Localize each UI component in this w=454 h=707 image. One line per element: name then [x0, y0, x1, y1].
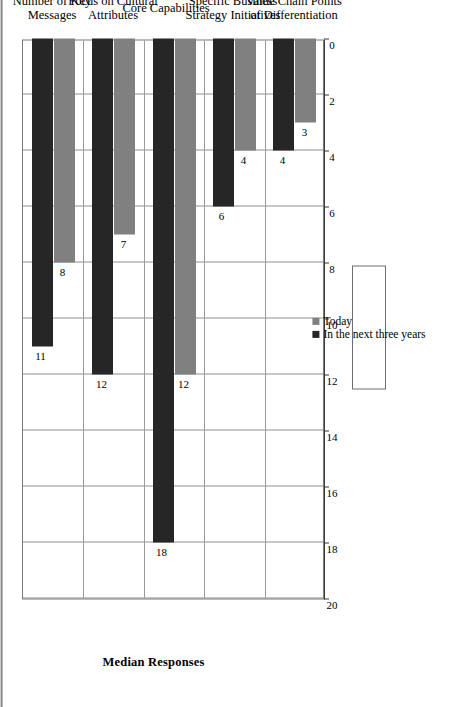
bar-value-label: 3	[297, 127, 311, 138]
bar-today	[54, 38, 75, 262]
gridline	[23, 597, 323, 598]
legend-swatch-icon	[312, 330, 319, 337]
category-label: Number of KeyMessages	[0, 0, 110, 21]
value-axis-title: Median Responses	[103, 655, 193, 670]
category-separator	[144, 40, 145, 598]
bar-today	[114, 38, 135, 234]
bar-today	[235, 38, 256, 150]
chart-canvas: 02468101214161820 Median Responses Value…	[0, 0, 454, 707]
bar-future	[273, 38, 294, 150]
plot-area	[22, 39, 324, 599]
tick-label: 20	[323, 599, 341, 610]
bar-value-label: 11	[34, 351, 48, 362]
bar-value-label: 6	[215, 211, 229, 222]
bar-value-label: 18	[155, 547, 169, 558]
legend-entry: In the next three years	[312, 327, 425, 340]
category-label-line: Number of Key	[0, 0, 110, 7]
tick-label: 16	[323, 487, 341, 498]
bar-future	[92, 38, 113, 374]
tick-label: 8	[323, 263, 341, 274]
rotated-chart-figure: 02468101214161820 Median Responses Value…	[0, 0, 454, 707]
category-separator	[83, 40, 84, 598]
bar-value-label: 4	[237, 155, 251, 166]
legend-label: Today	[323, 314, 352, 327]
legend-swatch-icon	[312, 317, 319, 324]
tick-label: 4	[323, 151, 341, 162]
legend-entry: Today	[312, 314, 425, 327]
bar-today	[295, 38, 316, 122]
tick-label: 2	[323, 95, 341, 106]
tick-label: 0	[323, 39, 341, 50]
bar-value-label: 7	[116, 239, 130, 250]
chart-legend: TodayIn the next three years	[352, 265, 386, 389]
tick-label: 18	[323, 543, 341, 554]
bar-value-label: 8	[56, 267, 70, 278]
bar-future	[213, 38, 234, 206]
tick-label: 12	[323, 375, 341, 386]
bar-future	[153, 38, 174, 542]
tick-label: 14	[323, 431, 341, 442]
legend-entries: TodayIn the next three years	[312, 314, 425, 340]
tick-label: 6	[323, 207, 341, 218]
bar-value-label: 12	[177, 379, 191, 390]
bar-today	[175, 38, 196, 374]
bar-value-label: 4	[275, 155, 289, 166]
bar-future	[32, 38, 53, 346]
category-label-line: Messages	[0, 7, 110, 21]
legend-label: In the next three years	[323, 327, 425, 340]
bar-value-label: 12	[94, 379, 108, 390]
category-separator	[265, 40, 266, 598]
category-separator	[204, 40, 205, 598]
